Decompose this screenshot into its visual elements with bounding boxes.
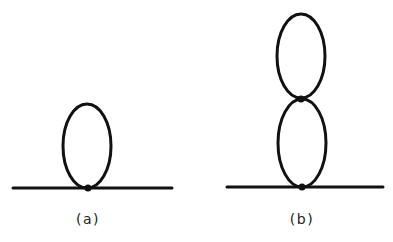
loop-b-upper	[277, 14, 325, 98]
vertex-b-bottom	[299, 184, 306, 191]
panel-label-b: (b)	[290, 211, 314, 227]
vertex-a	[85, 185, 92, 192]
loop-b-lower	[278, 99, 326, 187]
panel-a: (a)	[13, 104, 172, 227]
loop-a	[63, 104, 111, 188]
panel-b: (b)	[227, 14, 383, 227]
feynman-diagram-figure: (a) (b)	[0, 0, 393, 242]
panel-label-a: (a)	[76, 211, 100, 227]
vertex-b-middle	[298, 96, 305, 103]
